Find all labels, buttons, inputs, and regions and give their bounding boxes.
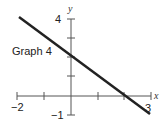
x-max-label: 3	[145, 102, 151, 114]
y-axis-label: y	[67, 3, 73, 14]
graph-4-figure: Graph 4 4 y −1 −2 3 x	[0, 0, 165, 129]
x-min-label: −2	[11, 101, 24, 113]
graph-line	[19, 17, 150, 114]
y-max-label: 4	[55, 13, 61, 25]
graph-label: Graph 4	[12, 45, 52, 57]
chart-canvas: Graph 4 4 y −1 −2 3 x	[0, 0, 165, 129]
x-axis-label: x	[153, 90, 159, 101]
y-min-label: −1	[51, 109, 64, 121]
